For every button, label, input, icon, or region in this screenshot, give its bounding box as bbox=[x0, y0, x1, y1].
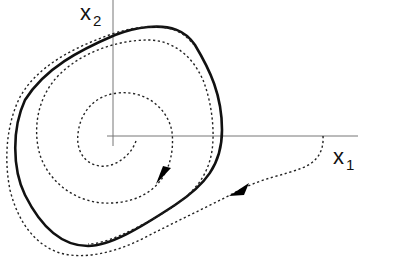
outer-trajectory-arrow-icon bbox=[229, 183, 249, 196]
phase-plane-canvas bbox=[0, 0, 419, 264]
inner-trajectory bbox=[37, 40, 213, 244]
inner-trajectory-arrow-icon bbox=[156, 166, 171, 184]
x1-axis-label-subscript: 1 bbox=[346, 156, 354, 173]
x2-axis-label-var: x bbox=[80, 0, 91, 25]
x2-axis-label-subscript: 2 bbox=[93, 12, 101, 29]
x1-axis-label: x1 bbox=[333, 146, 354, 172]
x1-axis-label-var: x bbox=[333, 144, 344, 169]
outer-trajectory bbox=[7, 27, 323, 256]
x2-axis-label: x2 bbox=[80, 2, 101, 28]
